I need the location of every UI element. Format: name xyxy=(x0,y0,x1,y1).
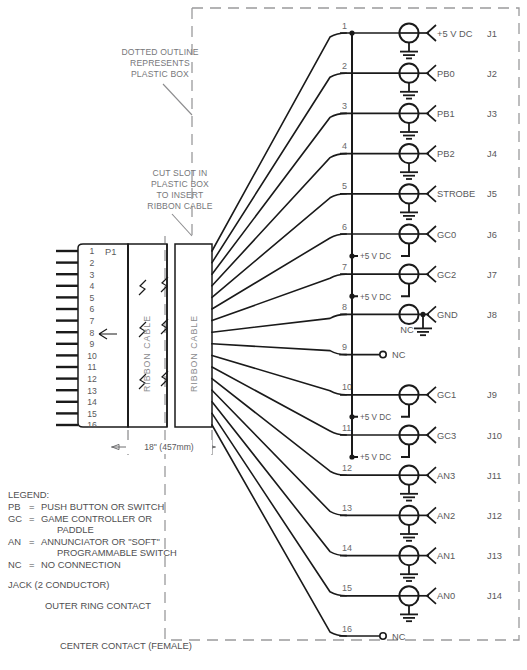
fanout-pin-number: 14 xyxy=(342,543,352,553)
jack-signal-label: AN3 xyxy=(437,471,455,481)
legend-outer-ring-contact: OUTER RING CONTACT xyxy=(45,600,151,611)
jack-row: +5 V DCGC0J6 xyxy=(340,224,497,262)
plus5-junction-dot xyxy=(349,294,354,299)
plus5-label: +5 V DC xyxy=(360,252,391,261)
jack-signal-label: GND xyxy=(437,310,458,320)
fanout-wire xyxy=(212,425,346,636)
legend-equals: = xyxy=(29,501,35,512)
legend-jack-title: JACK (2 CONDUCTOR) xyxy=(8,579,109,590)
jack-reference-label: J2 xyxy=(487,69,497,79)
plus5-junction-dot xyxy=(349,454,354,459)
jack-signal-label: AN0 xyxy=(437,591,455,601)
jack-row: +5 V DCGC1J9 xyxy=(340,385,497,423)
ribbon-cable-label-2: RIBBON CABLE xyxy=(189,315,199,392)
note-cut-slot-leader xyxy=(172,214,192,236)
fanout-wire xyxy=(212,113,346,274)
jack-reference-label: J4 xyxy=(487,149,497,159)
fanout-pin-number: 10 xyxy=(342,382,352,392)
note-cut-slot-line-3: TO INSERT xyxy=(157,190,204,200)
legend-description: GAME CONTROLLER OR xyxy=(41,513,152,524)
fanout-wire xyxy=(212,355,346,394)
fanout-pin-number: 8 xyxy=(342,302,347,312)
legend-equals: = xyxy=(29,536,35,547)
fanout-wire xyxy=(212,314,346,332)
note-plastic-box-line-3: PLASTIC BOX xyxy=(131,69,189,79)
jack-row: NC xyxy=(340,350,406,360)
jack-signal-label: AN2 xyxy=(437,511,455,521)
plus5-label: +5 V DC xyxy=(360,293,391,302)
connector-pin-number: 7 xyxy=(90,316,95,326)
note-plastic-box-line-1: DOTTED OUTLINE xyxy=(121,47,198,57)
fanout-pin-number: 12 xyxy=(342,463,352,473)
jack-signal-label: GC0 xyxy=(437,230,456,240)
jack-signal-label: AN1 xyxy=(437,551,455,561)
plus5-junction-dot xyxy=(349,414,354,419)
jack-reference-label: J9 xyxy=(487,390,497,400)
jack-row: AN1J13 xyxy=(340,546,502,581)
connector-pin-number: 2 xyxy=(90,258,95,268)
jack-reference-label: J5 xyxy=(487,189,497,199)
fanout-wire xyxy=(212,234,346,309)
fanout-wire xyxy=(212,344,346,355)
note-cut-slot-line-1: CUT SLOT IN xyxy=(153,168,208,178)
legend-abbr: GC xyxy=(8,513,22,524)
fanout-pin-number: 13 xyxy=(342,503,352,513)
legend-description: ANNUNCIATOR OR "SOFT" xyxy=(41,536,160,547)
connector-pin-number: 13 xyxy=(87,386,97,396)
note-plastic-box-line-2: REPRESENTS xyxy=(130,58,190,68)
fanout-pin-number: 15 xyxy=(342,583,352,593)
legend-description: PUSH BUTTON OR SWITCH xyxy=(41,501,164,512)
connector-pin-number: 16 xyxy=(87,420,97,430)
jack-row: PB0J2 xyxy=(340,64,497,99)
connector-pins: 12345678910111213141516 xyxy=(56,246,97,430)
orientation-arrow-icon xyxy=(99,329,117,339)
plus5-label: +5 V DC xyxy=(360,453,391,462)
note-plastic-box-leader xyxy=(163,84,192,115)
jack-row: AN3J11 xyxy=(340,466,501,501)
jack-reference-label: J1 xyxy=(487,29,497,39)
note-cut-slot-line-2: PLASTIC BOX xyxy=(151,179,209,189)
jack-reference-label: J8 xyxy=(487,310,497,320)
dimension-18in: 18" (457mm) xyxy=(111,430,216,455)
fanout-pin-number: 4 xyxy=(342,141,347,151)
connector-body xyxy=(78,244,128,427)
legend-description-cont: PROGRAMMABLE SWITCH xyxy=(57,547,177,558)
connector-pin-number: 8 xyxy=(90,328,95,338)
legend-abbr: PB xyxy=(8,501,21,512)
fanout-wire xyxy=(212,73,346,262)
connector-pin-number: 6 xyxy=(90,304,95,314)
fanout-wire xyxy=(212,390,346,515)
jack-signal-label: +5 V DC xyxy=(437,29,473,39)
jack-row: +5 V DCJ1 xyxy=(340,23,497,58)
connector-label-p1: P1 xyxy=(105,247,116,257)
nc-label: NC xyxy=(392,350,406,360)
legend: LEGEND:PB=PUSH BUTTON OR SWITCHGC=GAME C… xyxy=(8,489,192,651)
jack-signal-label: GC3 xyxy=(437,431,456,441)
connector-pin-number: 4 xyxy=(90,281,95,291)
fanout-pin-number: 7 xyxy=(342,262,347,272)
jack-reference-label: J12 xyxy=(487,511,502,521)
fanout-pin-number: 5 xyxy=(342,181,347,191)
legend-heading: LEGEND: xyxy=(8,489,49,500)
connector-pin-number: 9 xyxy=(90,339,95,349)
jack-row: PB1J3 xyxy=(340,104,497,139)
jack-row: AN2J12 xyxy=(340,506,502,541)
jack-row: NCGNDJ8 xyxy=(340,305,497,336)
fanout-wires: 12345678910111213141516 xyxy=(212,21,352,637)
ribbon-cable-label-1: RIBBON CABLE xyxy=(142,315,152,392)
fanout-wire xyxy=(212,33,346,251)
legend-abbr: AN xyxy=(8,536,21,547)
jack-signal-label: GC2 xyxy=(437,270,456,280)
jack-reference-label: J13 xyxy=(487,551,502,561)
jack-row: STROBEJ5 xyxy=(340,184,497,219)
connector-pin-number: 3 xyxy=(90,270,95,280)
fanout-wire xyxy=(212,402,346,556)
jack-reference-label: J14 xyxy=(487,591,502,601)
fanout-pin-number: 11 xyxy=(342,423,351,433)
jack-reference-label: J7 xyxy=(487,270,497,280)
note-plastic-box: DOTTED OUTLINE REPRESENTS PLASTIC BOX xyxy=(121,47,198,115)
jack-reference-label: J10 xyxy=(487,431,502,441)
note-cut-slot-line-4: RIBBON CABLE xyxy=(147,201,212,211)
fanout-pin-number: 16 xyxy=(342,624,352,634)
jack-row: +5 V DCGC2J7 xyxy=(340,265,497,303)
